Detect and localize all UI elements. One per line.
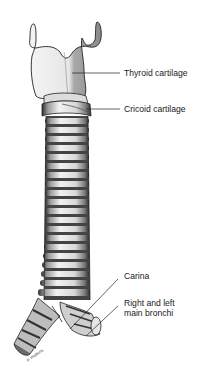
main-bronchi-shape: [14, 298, 101, 355]
cricoid-cartilage-label: Cricoid cartilage: [124, 104, 186, 114]
bronchi-label-line1: Right and left: [124, 298, 175, 308]
bronchi-label-line2: main bronchi: [124, 308, 173, 318]
cricoid-cartilage-shape: [42, 93, 91, 116]
thyroid-cartilage-shape: [30, 22, 102, 103]
trachea-diagram: P. Pfefferle Thyroid cartilage Cricoid c…: [0, 0, 212, 383]
tracheal-rings: [38, 116, 90, 300]
carina-label: Carina: [124, 271, 149, 281]
thyroid-cartilage-label: Thyroid cartilage: [124, 68, 188, 78]
trachea-illustration: P. Pfefferle: [0, 0, 212, 383]
